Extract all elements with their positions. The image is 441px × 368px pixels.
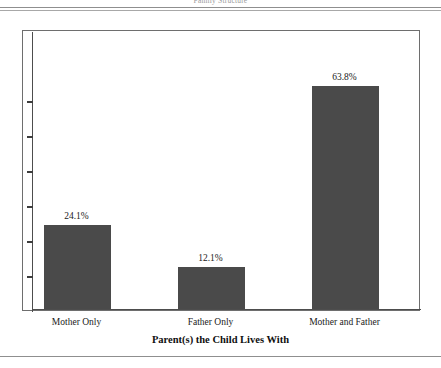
bar-value-label: 12.1% bbox=[161, 253, 261, 263]
category-label: Father Only bbox=[141, 317, 281, 327]
header-rule-lower bbox=[0, 10, 441, 11]
y-axis-tick bbox=[27, 241, 33, 243]
category-label: Mother Only bbox=[7, 317, 147, 327]
bar-value-label: 63.8% bbox=[295, 72, 395, 82]
page-caption: Family Structure bbox=[0, 0, 441, 5]
y-axis-tick bbox=[27, 136, 33, 138]
bar bbox=[178, 267, 245, 309]
header-rule-upper bbox=[0, 7, 441, 8]
x-axis-title: Parent(s) the Child Lives With bbox=[0, 334, 441, 345]
page-header: Family Structure bbox=[0, 0, 441, 13]
bar bbox=[44, 225, 111, 309]
y-axis-tick bbox=[27, 206, 33, 208]
y-axis-tick bbox=[27, 101, 33, 103]
bar bbox=[312, 86, 379, 309]
footer-rule bbox=[0, 356, 441, 357]
bar-value-label: 24.1% bbox=[27, 211, 127, 221]
y-axis-tick bbox=[27, 171, 33, 173]
y-axis-tick bbox=[27, 276, 33, 278]
category-label: Mother and Father bbox=[275, 317, 415, 327]
x-axis-baseline bbox=[32, 309, 421, 310]
